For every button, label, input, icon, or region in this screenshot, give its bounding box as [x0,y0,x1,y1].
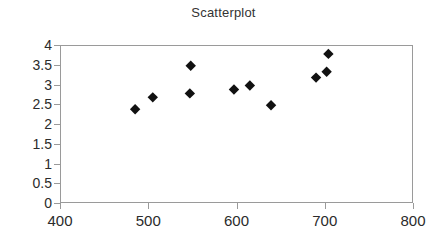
y-tick-label: 2 [4,117,52,131]
x-tick-label: 500 [136,212,161,229]
data-point-marker [185,88,195,98]
y-tick-label-wrap: 0 [0,196,52,210]
x-tick-label-wrap: 600 [207,212,267,230]
chart-title: Scatterplot [0,5,447,20]
x-tick-label-wrap: 400 [30,212,90,230]
x-tick-label: 600 [224,212,249,229]
y-tick-label: 3 [4,78,52,92]
x-tick-label-wrap: 700 [295,212,355,230]
y-tick-label-wrap: 2.5 [0,97,52,111]
plot-area [60,45,413,203]
data-point-marker [229,84,239,94]
y-tick-label-wrap: 0.5 [0,176,52,190]
data-point-marker [245,80,255,90]
y-tick-label-wrap: 4 [0,38,52,52]
x-tick-label: 700 [312,212,337,229]
y-tick-label: 1.5 [4,137,52,151]
y-tick-label-wrap: 2 [0,117,52,131]
data-point-marker [311,72,321,82]
x-tick-label-wrap: 500 [118,212,178,230]
y-tick-label: 4 [4,38,52,52]
y-tick-label: 3.5 [4,58,52,72]
scatterplot-figure: Scatterplot 00.511.522.533.54 4005006007… [0,0,447,250]
y-tick-label-wrap: 3.5 [0,58,52,72]
y-tick-label: 0.5 [4,176,52,190]
data-point-marker [186,61,196,71]
y-tick-label: 0 [4,196,52,210]
data-points-layer [61,46,414,204]
y-tick-label: 1 [4,157,52,171]
x-tick-label: 400 [47,212,72,229]
data-point-marker [130,104,140,114]
y-tick-label-wrap: 1 [0,157,52,171]
x-tick-label-wrap: 800 [383,212,443,230]
data-point-marker [321,66,331,76]
y-tick-label-wrap: 1.5 [0,137,52,151]
data-point-marker [148,92,158,102]
y-tick-label: 2.5 [4,97,52,111]
data-point-marker [266,100,276,110]
data-point-marker [323,49,333,59]
y-tick-label-wrap: 3 [0,78,52,92]
x-tick-label: 800 [400,212,425,229]
